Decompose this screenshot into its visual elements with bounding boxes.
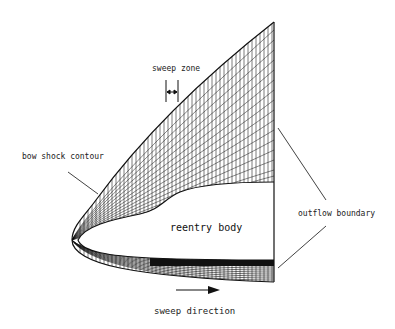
outflow-leader-top bbox=[278, 128, 326, 200]
diagram-canvas bbox=[0, 0, 395, 329]
outflow-leader-bottom bbox=[278, 226, 326, 268]
sweep-zone-label: sweep zone bbox=[152, 64, 200, 73]
sweep-zone-marker bbox=[166, 80, 178, 102]
computational-mesh bbox=[72, 0, 274, 329]
sweep-direction-arrow bbox=[176, 286, 220, 294]
sweep-direction-label: sweep direction bbox=[154, 306, 235, 316]
outflow-boundary-label: outflow boundary bbox=[298, 209, 375, 218]
bow-shock-label: bow shock contour bbox=[22, 152, 104, 161]
bow-shock-leader bbox=[68, 172, 98, 194]
reentry-body-label: reentry body bbox=[170, 222, 242, 233]
